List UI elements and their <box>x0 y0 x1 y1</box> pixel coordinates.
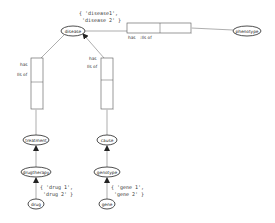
relation-label-cause-has: has <box>89 56 97 61</box>
svg-text:treatment: treatment <box>25 138 47 143</box>
node-drugtherapy[interactable]: drugtherapy <box>21 167 51 177</box>
node-gene[interactable]: gene <box>99 199 115 209</box>
node-disease[interactable]: disease <box>61 26 85 36</box>
edge-treatment-relation-disease <box>41 35 64 58</box>
svg-text:gene: gene <box>102 202 113 207</box>
svg-text:phenotype: phenotype <box>235 29 258 34</box>
edge-cause-relation-disease <box>83 34 104 58</box>
relation-box-disease-phenotype[interactable] <box>127 23 192 34</box>
svg-text:cause: cause <box>101 138 114 143</box>
node-phenotype[interactable]: phenotype <box>233 26 261 36</box>
svg-text:disease: disease <box>65 29 82 34</box>
svg-text:drug: drug <box>31 202 41 207</box>
edge-relation-phenotype <box>191 28 233 30</box>
set-label-disease: { 'disease1', 'disease 2' } <box>79 10 121 23</box>
svg-text:genotype: genotype <box>97 170 118 175</box>
svg-text:drugtherapy: drugtherapy <box>23 170 50 175</box>
node-treatment[interactable]: treatment <box>23 135 49 145</box>
node-cause[interactable]: cause <box>97 135 117 145</box>
relation-label-disease-phenotype: has :Ils of <box>128 35 152 40</box>
relation-box-cause-disease[interactable] <box>101 58 114 110</box>
set-label-drug: { 'drug 1', 'drug 2' } <box>40 184 76 198</box>
node-genotype[interactable]: genotype <box>94 167 120 177</box>
relation-label-cause-ils-of: Ils of <box>87 64 98 69</box>
node-drug[interactable]: drug <box>28 199 44 209</box>
relation-box-treatment-disease[interactable] <box>31 58 44 110</box>
diagram-canvas: has :Ils of has Ils of has Ils of { 'dis… <box>0 0 275 223</box>
relation-label-treatment-ils-of: Ils of <box>17 72 28 77</box>
set-label-gene: { 'gene 1', 'gene 2' } <box>111 184 147 198</box>
relation-label-treatment-has: has <box>20 62 28 67</box>
